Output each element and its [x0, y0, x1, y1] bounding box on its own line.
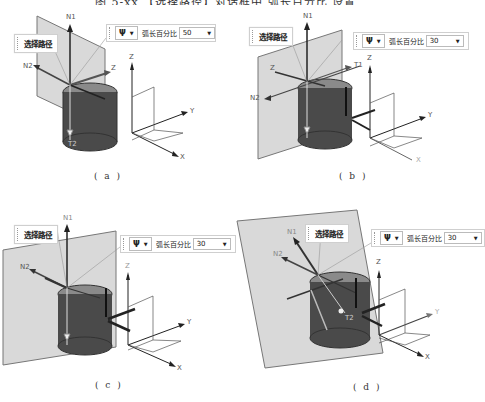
- arc-percent-select[interactable]: 30 ▼: [444, 232, 482, 244]
- path-tool-icon: Ψ: [366, 37, 373, 46]
- axis-label-t2: T2: [68, 140, 77, 148]
- chevron-down-icon: ▼: [456, 38, 460, 44]
- arc-percent-select[interactable]: 30 ▼: [426, 35, 464, 47]
- axis-label-n2: N2: [273, 250, 283, 258]
- path-tool-icon: Ψ: [119, 29, 126, 38]
- arc-percent-label: 弧长百分比: [142, 28, 177, 38]
- axis-label-n1: N1: [66, 13, 76, 21]
- axis-label-x: X: [425, 353, 430, 361]
- chevron-down-icon: ▼: [474, 235, 478, 241]
- chevron-down-icon: ▼: [377, 38, 381, 44]
- arc-percent-label: 弧长百分比: [156, 239, 191, 249]
- panel-a: N1 N2 Z T2 Z Y X 选择路径 Ψ ▼ 弧长百分比 50 ▼ ( a…: [0, 10, 240, 190]
- axis-label-y: Y: [435, 308, 439, 316]
- axis-label-t1: Z: [111, 64, 116, 72]
- arc-percent-value: 30: [430, 37, 439, 45]
- axis-label-n1: N1: [303, 12, 313, 20]
- panel-d: N1 N2 T2 Z Y X 选择路径 Ψ ▼ 弧长百分比 30 ▼ ( d ): [225, 195, 482, 402]
- arc-percent-select[interactable]: 50 ▼: [179, 27, 215, 39]
- axis-label-t1: T1: [354, 61, 363, 69]
- arc-percent-toolbar: Ψ ▼ 弧长百分比 30 ▼: [371, 229, 485, 247]
- axis-label-x: X: [416, 156, 421, 164]
- panel-caption: ( d ): [353, 382, 382, 392]
- axis-label-y: Y: [187, 318, 191, 326]
- arc-percent-label: 弧长百分比: [407, 233, 442, 243]
- panel-caption: ( c ): [95, 380, 123, 390]
- path-option-dropdown[interactable]: Ψ ▼: [362, 34, 385, 48]
- axis-label-z: Z: [125, 262, 130, 270]
- select-path-label[interactable]: 选择路径: [305, 224, 349, 243]
- chevron-down-icon: ▼: [395, 235, 399, 241]
- select-path-label[interactable]: 选择路径: [249, 27, 293, 46]
- arc-percent-label: 弧长百分比: [389, 36, 424, 46]
- path-option-dropdown[interactable]: Ψ ▼: [115, 26, 138, 40]
- panel-b: N1 N2 T1 Z Z Y X 选择路径 Ψ ▼ 弧长百分比 30 ▼ ( b…: [240, 10, 482, 190]
- select-path-text: 选择路径: [315, 230, 343, 239]
- axis-label-n2: N2: [23, 62, 33, 70]
- axis-label-n1: N1: [63, 214, 73, 222]
- arc-percent-value: 50: [183, 29, 192, 37]
- arc-percent-toolbar: Ψ ▼ 弧长百分比 50 ▼: [106, 24, 216, 42]
- panel-caption: ( b ): [339, 171, 368, 181]
- figure-title: 图 5-xx 【选择路径】对话框中 弧长百分比 设置: [95, 0, 395, 5]
- select-path-text: 选择路径: [24, 231, 52, 240]
- axis-label-n1: N1: [287, 228, 297, 236]
- chevron-down-icon: ▼: [144, 241, 148, 247]
- axis-label-z: Z: [376, 258, 381, 266]
- axis-label-z: Z: [129, 53, 134, 61]
- path-tool-icon: Ψ: [133, 240, 140, 249]
- select-path-label[interactable]: 选择路径: [14, 225, 58, 244]
- select-path-text: 选择路径: [259, 33, 287, 42]
- axis-label-t2: T2: [345, 314, 354, 322]
- axis-label-y: Y: [190, 107, 194, 115]
- scene-d: [225, 195, 482, 402]
- path-option-dropdown[interactable]: Ψ ▼: [129, 237, 152, 251]
- chevron-down-icon: ▼: [207, 30, 211, 36]
- panel-c: N1 N2 Z Y X 选择路径 Ψ ▼ 弧长百分比 30 ▼ ( c ): [0, 195, 240, 402]
- arc-percent-toolbar: Ψ ▼ 弧长百分比 30 ▼: [120, 235, 236, 253]
- select-path-text: 选择路径: [24, 40, 52, 49]
- arc-percent-value: 30: [197, 240, 206, 248]
- axis-label-x: X: [180, 153, 185, 161]
- arc-percent-value: 30: [448, 234, 457, 242]
- panel-caption: ( a ): [94, 171, 122, 181]
- axis-label-n2: N2: [20, 263, 30, 271]
- axis-label-x: X: [177, 364, 182, 372]
- axis-label-t2: Z: [270, 64, 275, 72]
- path-option-dropdown[interactable]: Ψ ▼: [380, 231, 403, 245]
- axis-label-y: Y: [428, 111, 432, 119]
- axis-label-z: Z: [367, 54, 372, 62]
- select-path-label[interactable]: 选择路径: [14, 34, 58, 53]
- axis-label-n2: N2: [250, 94, 260, 102]
- chevron-down-icon: ▼: [130, 30, 134, 36]
- path-tool-icon: Ψ: [384, 234, 391, 243]
- arc-percent-toolbar: Ψ ▼ 弧长百分比 30 ▼: [353, 32, 469, 50]
